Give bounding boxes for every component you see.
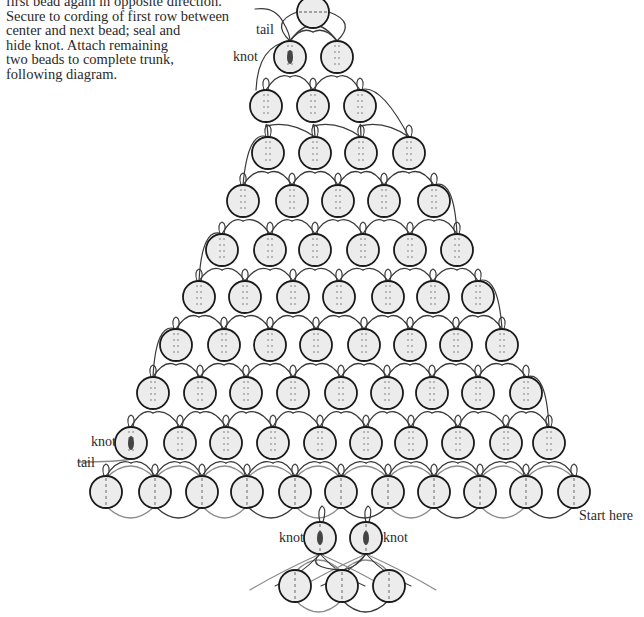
bead (276, 185, 308, 217)
bead (304, 522, 336, 554)
bead (184, 377, 216, 409)
tail-label-left: tail (77, 455, 95, 471)
bead (442, 427, 474, 459)
bead (371, 377, 403, 409)
bead (186, 476, 218, 508)
bead (304, 427, 336, 459)
bead (372, 281, 404, 313)
bead (510, 377, 542, 409)
tail-label-top: tail (256, 22, 274, 38)
knot-icon (317, 531, 323, 545)
bead (230, 377, 262, 409)
bead (183, 281, 215, 313)
bead (164, 427, 196, 459)
bead (464, 476, 496, 508)
bead (368, 185, 400, 217)
bead (257, 427, 289, 459)
bead (347, 234, 379, 266)
bead (490, 427, 522, 459)
bead (394, 234, 426, 266)
bead (90, 476, 122, 508)
bead (326, 570, 358, 602)
bead (299, 137, 331, 169)
bead (139, 476, 171, 508)
bead (160, 329, 192, 361)
bead (227, 185, 259, 217)
bead (393, 137, 425, 169)
bead (441, 234, 473, 266)
bead (299, 234, 331, 266)
bead (277, 377, 309, 409)
knot-label-trunk-right: knot (383, 530, 408, 546)
bead (533, 427, 565, 459)
bead (418, 185, 450, 217)
bead (279, 570, 311, 602)
bead-tree-diagram (0, 0, 644, 617)
bead (462, 377, 494, 409)
bead (350, 427, 382, 459)
bead (206, 234, 238, 266)
bead (440, 329, 472, 361)
bead (416, 377, 448, 409)
bead (348, 329, 380, 361)
knot-label-trunk-left: knot (279, 530, 304, 546)
bead (229, 281, 261, 313)
bead (372, 476, 404, 508)
knot-label-top: knot (233, 49, 258, 65)
bead (279, 476, 311, 508)
bead (344, 90, 376, 122)
bead (350, 522, 382, 554)
bead (345, 137, 377, 169)
bead (418, 476, 450, 508)
bead (394, 329, 426, 361)
start-here-label: Start here (579, 508, 633, 524)
bead (274, 41, 306, 73)
bead (252, 137, 284, 169)
bead (462, 281, 494, 313)
bead (115, 427, 147, 459)
knot-icon (287, 50, 293, 64)
bead (254, 329, 286, 361)
beads (90, 0, 590, 602)
bead (321, 41, 353, 73)
bead (323, 281, 355, 313)
bead (325, 476, 357, 508)
bead (486, 329, 518, 361)
bead (417, 281, 449, 313)
bead (300, 329, 332, 361)
bead (558, 476, 590, 508)
bead (325, 377, 357, 409)
bead (322, 185, 354, 217)
bead (297, 90, 329, 122)
bead (137, 377, 169, 409)
bead (208, 329, 240, 361)
bead (250, 90, 282, 122)
bead (510, 476, 542, 508)
bead (395, 427, 427, 459)
bead (210, 427, 242, 459)
knot-label-left: knot (91, 434, 116, 450)
knot-icon (128, 436, 134, 450)
knot-icon (363, 531, 369, 545)
bead (277, 281, 309, 313)
bead (254, 234, 286, 266)
bead (297, 0, 329, 28)
bead (373, 570, 405, 602)
bead (231, 476, 263, 508)
